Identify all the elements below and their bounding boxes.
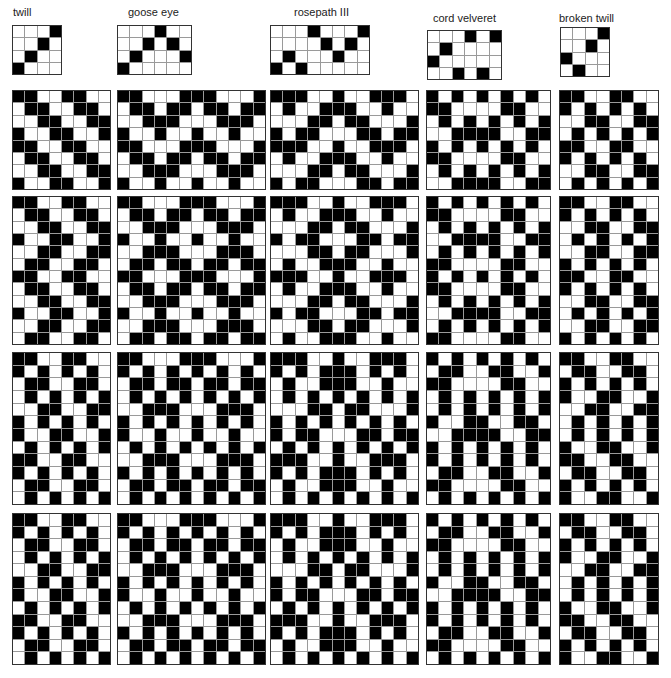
filled-cell bbox=[74, 442, 85, 454]
empty-cell bbox=[526, 378, 537, 390]
filled-cell bbox=[539, 627, 550, 639]
empty-cell bbox=[118, 246, 129, 257]
empty-cell bbox=[439, 271, 450, 282]
filled-cell bbox=[585, 627, 596, 639]
empty-cell bbox=[539, 480, 550, 492]
empty-cell bbox=[539, 91, 550, 102]
filled-cell bbox=[647, 492, 658, 504]
empty-cell bbox=[229, 353, 240, 365]
filled-cell bbox=[526, 514, 537, 526]
empty-cell bbox=[464, 153, 475, 164]
empty-cell bbox=[477, 539, 488, 551]
empty-cell bbox=[427, 652, 438, 664]
empty-cell bbox=[308, 539, 319, 551]
filled-cell bbox=[167, 480, 178, 492]
filled-cell bbox=[13, 308, 24, 319]
empty-cell bbox=[382, 246, 393, 257]
filled-cell bbox=[25, 480, 36, 492]
empty-cell bbox=[180, 366, 191, 378]
empty-cell bbox=[320, 234, 331, 245]
empty-cell bbox=[345, 91, 356, 102]
empty-cell bbox=[394, 442, 405, 454]
filled-cell bbox=[394, 615, 405, 627]
empty-cell bbox=[427, 391, 438, 403]
filled-cell bbox=[333, 627, 344, 639]
empty-cell bbox=[155, 91, 166, 102]
empty-cell bbox=[647, 378, 658, 390]
empty-cell bbox=[477, 103, 488, 114]
empty-cell bbox=[345, 602, 356, 614]
empty-cell bbox=[370, 222, 381, 233]
empty-cell bbox=[501, 652, 512, 664]
empty-cell bbox=[560, 234, 571, 245]
empty-cell bbox=[204, 454, 215, 466]
filled-cell bbox=[464, 320, 475, 331]
filled-cell bbox=[204, 602, 215, 614]
empty-cell bbox=[382, 564, 393, 576]
threading-draft-broken-twill bbox=[560, 27, 610, 77]
empty-cell bbox=[489, 514, 500, 526]
empty-cell bbox=[514, 527, 525, 539]
filled-cell bbox=[254, 197, 265, 208]
filled-cell bbox=[130, 91, 141, 102]
empty-cell bbox=[407, 378, 418, 390]
filled-cell bbox=[320, 527, 331, 539]
filled-cell bbox=[407, 652, 418, 664]
filled-cell bbox=[38, 103, 49, 114]
empty-cell bbox=[308, 103, 319, 114]
filled-cell bbox=[320, 564, 331, 576]
filled-cell bbox=[254, 514, 265, 526]
empty-cell bbox=[167, 391, 178, 403]
filled-cell bbox=[634, 116, 645, 127]
empty-cell bbox=[192, 564, 203, 576]
filled-cell bbox=[13, 197, 24, 208]
filled-cell bbox=[407, 404, 418, 416]
empty-cell bbox=[308, 416, 319, 428]
filled-cell bbox=[647, 178, 658, 189]
filled-cell bbox=[99, 492, 110, 504]
filled-cell bbox=[320, 320, 331, 331]
filled-cell bbox=[50, 589, 61, 601]
filled-cell bbox=[155, 128, 166, 139]
filled-cell bbox=[130, 283, 141, 294]
empty-cell bbox=[118, 539, 129, 551]
empty-cell bbox=[241, 492, 252, 504]
empty-cell bbox=[394, 602, 405, 614]
filled-cell bbox=[217, 577, 228, 589]
empty-cell bbox=[283, 429, 294, 441]
filled-cell bbox=[439, 246, 450, 257]
empty-cell bbox=[501, 320, 512, 331]
empty-cell bbox=[526, 480, 537, 492]
filled-cell bbox=[167, 153, 178, 164]
filled-cell bbox=[585, 246, 596, 257]
filled-cell bbox=[241, 627, 252, 639]
empty-cell bbox=[427, 404, 438, 416]
filled-cell bbox=[394, 353, 405, 365]
filled-cell bbox=[501, 480, 512, 492]
filled-cell bbox=[370, 128, 381, 139]
empty-cell bbox=[296, 153, 307, 164]
empty-cell bbox=[180, 404, 191, 416]
filled-cell bbox=[501, 602, 512, 614]
filled-cell bbox=[585, 320, 596, 331]
filled-cell bbox=[370, 197, 381, 208]
filled-cell bbox=[439, 378, 450, 390]
empty-cell bbox=[439, 128, 450, 139]
filled-cell bbox=[308, 652, 319, 664]
empty-cell bbox=[370, 209, 381, 220]
empty-cell bbox=[526, 552, 537, 564]
filled-cell bbox=[180, 103, 191, 114]
weave-block-twill-row3 bbox=[12, 352, 111, 505]
empty-cell bbox=[382, 296, 393, 307]
filled-cell bbox=[99, 178, 110, 189]
empty-cell bbox=[585, 615, 596, 627]
filled-cell bbox=[25, 197, 36, 208]
empty-cell bbox=[489, 283, 500, 294]
filled-cell bbox=[382, 103, 393, 114]
filled-cell bbox=[357, 128, 368, 139]
filled-cell bbox=[241, 577, 252, 589]
filled-cell bbox=[514, 416, 525, 428]
filled-cell bbox=[597, 128, 608, 139]
empty-cell bbox=[283, 416, 294, 428]
empty-cell bbox=[452, 209, 463, 220]
